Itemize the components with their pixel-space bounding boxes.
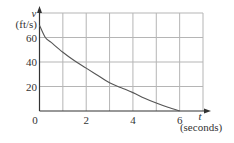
x-tick-label: 4 <box>130 114 136 126</box>
y-tick-label: 20 <box>26 81 38 93</box>
y-tick-label: 60 <box>26 32 38 44</box>
velocity-chart: 0246204060v(ft/s)t(seconds) <box>0 0 234 143</box>
y-axis-arrow-icon <box>37 6 42 13</box>
x-axis-unit: (seconds) <box>180 121 222 134</box>
x-tick-label: 2 <box>83 114 89 126</box>
x-tick-label: 0 <box>32 114 38 126</box>
y-axis-unit: (ft/s) <box>16 18 38 31</box>
x-axis-arrow-icon <box>204 109 211 114</box>
y-tick-label: 40 <box>26 56 38 68</box>
